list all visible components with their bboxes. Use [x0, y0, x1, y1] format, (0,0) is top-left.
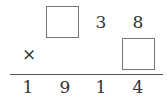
multiply-sign: ×: [11, 44, 47, 64]
product-digit-units: 4: [120, 77, 156, 97]
product-digit-hundreds: 9: [47, 77, 83, 97]
answer-box-multiplicand-hundreds[interactable]: [46, 6, 79, 38]
multiplicand-digit-units: 8: [120, 12, 156, 32]
product-digit-tens: 1: [83, 77, 119, 97]
multiplicand-digit-tens: 3: [83, 12, 119, 32]
product-digit-thousands: 1: [10, 77, 46, 97]
answer-box-multiplier-units[interactable]: [122, 38, 155, 70]
result-divider-line: [10, 74, 163, 75]
